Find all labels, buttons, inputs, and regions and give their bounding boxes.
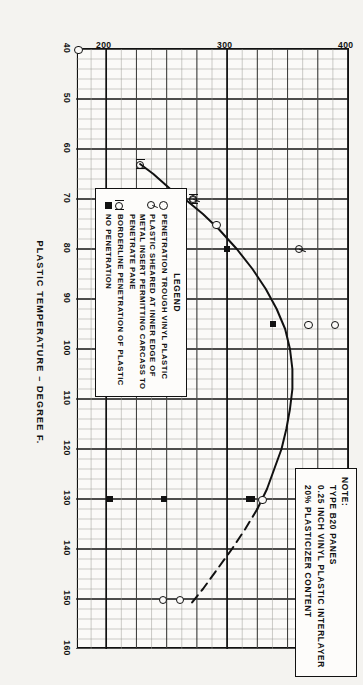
legend-entry-no-penetration: NO PENETRATION <box>103 196 113 389</box>
open-circle-icon <box>159 196 169 214</box>
data-point-filled-square <box>224 246 231 253</box>
y-tick-label: 400 <box>338 40 354 50</box>
data-point-filled-square <box>246 496 253 503</box>
data-point-filled-square <box>270 321 277 328</box>
legend-label-3: NO PENETRATION <box>103 214 113 289</box>
data-point-open-circle <box>212 221 221 230</box>
legend-box: LEGEND PENETRATION TROUGH VINYL PLASTIC … <box>95 188 187 397</box>
data-point-sheared-circle <box>295 245 304 254</box>
filled-square-icon <box>105 196 113 214</box>
x-tick-label: 160 <box>62 639 72 657</box>
note-line-1: 0.25 INCH VINYL PLASTIC INTERLAYER <box>314 477 326 668</box>
legend-title: LEGEND <box>172 196 182 389</box>
x-tick-label: 100 <box>62 339 72 357</box>
x-tick-label: 150 <box>62 589 72 607</box>
borderline-circle-icon <box>115 196 125 214</box>
x-tick-label: 80 <box>62 239 72 257</box>
legend-entry-penetration: PENETRATION TROUGH VINYL PLASTIC <box>159 196 169 389</box>
y-tick-label: 200 <box>96 40 112 50</box>
x-tick-label: 90 <box>62 289 72 307</box>
chart-page: 405060708090100110120130140150160 PLASTI… <box>0 0 363 685</box>
rotated-figure-wrapper: 405060708090100110120130140150160 PLASTI… <box>0 0 363 685</box>
data-point-open-circle <box>258 496 267 505</box>
x-tick-label: 120 <box>62 439 72 457</box>
data-point-filled-square <box>161 496 168 503</box>
x-tick-label: 140 <box>62 539 72 557</box>
x-tick-label: 110 <box>62 389 72 407</box>
x-tick-label: 60 <box>62 139 72 157</box>
note-line-2: 20% PLASTICIZER CONTENT <box>302 477 314 668</box>
x-tick-label: 70 <box>62 189 72 207</box>
legend-label-1: PLASTIC SHEARED AT INNER EDGE OF METAL I… <box>127 214 157 389</box>
note-line-0: TYPE B20 PANES <box>327 477 339 668</box>
x-axis-title: PLASTIC TEMPERATURE – DEGREE F. <box>35 0 45 685</box>
legend-label-2: BORDERLINE PENETRATION OF PLASTIC <box>115 214 125 386</box>
note-box: NOTE: TYPE B20 PANES 0.25 INCH VINYL PLA… <box>295 468 357 677</box>
x-tick-label: 40 <box>62 39 72 57</box>
note-title: NOTE: <box>339 477 351 668</box>
sheared-circle-icon <box>147 196 157 214</box>
data-point-open-circle <box>304 321 313 330</box>
data-point-borderline-circle <box>189 194 198 205</box>
data-point-open-circle <box>74 46 83 55</box>
data-point-borderline-circle <box>136 159 145 170</box>
figure-canvas: 405060708090100110120130140150160 PLASTI… <box>0 0 363 685</box>
x-tick-label: 50 <box>62 89 72 107</box>
data-point-filled-square <box>107 496 114 503</box>
legend-entry-borderline: BORDERLINE PENETRATION OF PLASTIC <box>115 196 125 389</box>
legend-label-0: PENETRATION TROUGH VINYL PLASTIC <box>159 214 169 380</box>
y-tick-label: 300 <box>217 40 233 50</box>
x-tick-label: 130 <box>62 489 72 507</box>
legend-entry-sheared: PLASTIC SHEARED AT INNER EDGE OF METAL I… <box>127 196 157 389</box>
